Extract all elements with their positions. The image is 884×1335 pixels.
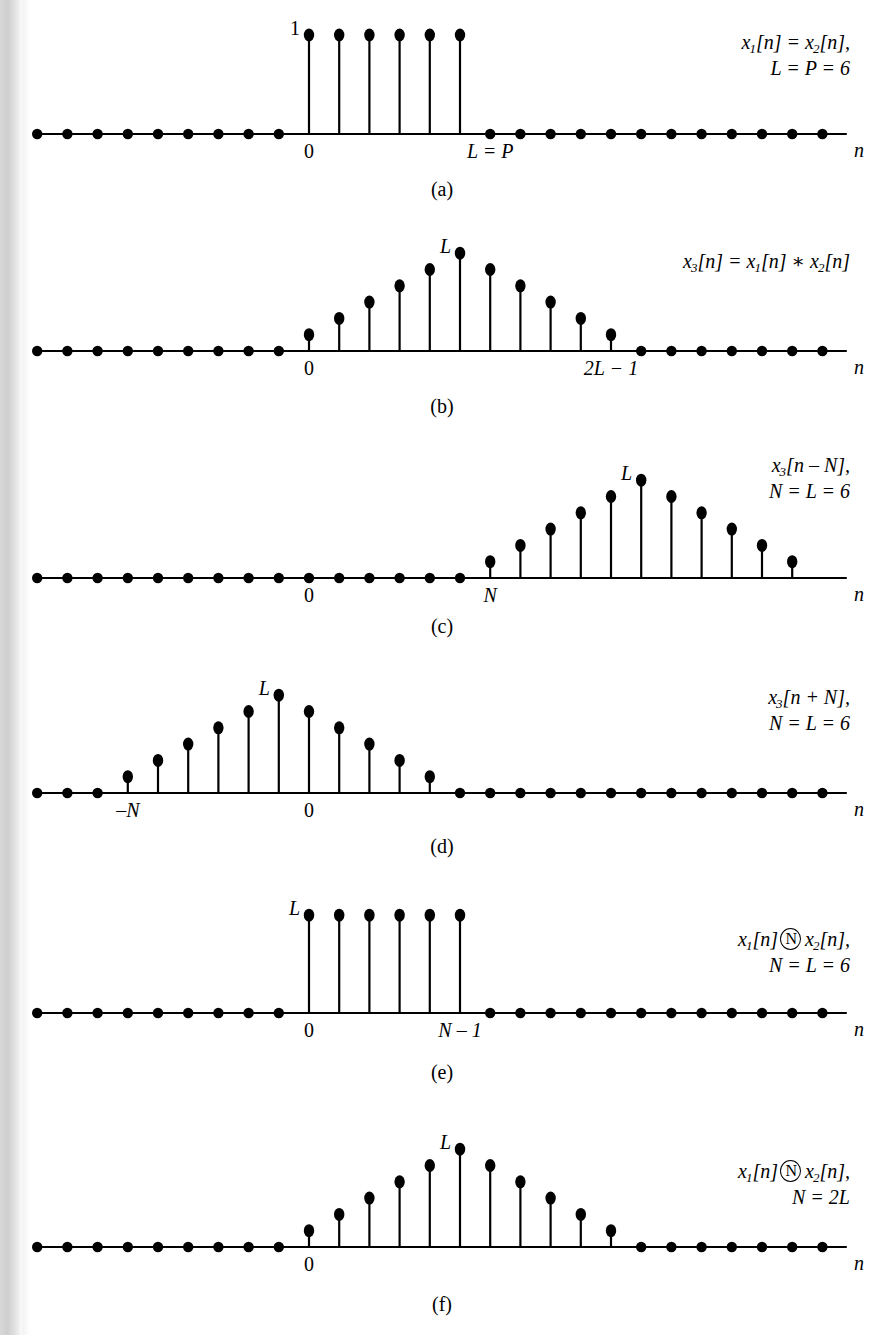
stem-head-dot [123,770,133,783]
sample-dot-zero [817,1242,827,1252]
sample-dot-zero [606,129,616,139]
sample-dot-zero [62,573,72,583]
panel-caption-f: (f) [0,1293,884,1316]
sample-dot-zero [817,1008,827,1018]
sample-dot-zero [274,346,284,356]
stem-head-dot [394,909,404,922]
sample-dot-zero [787,1242,797,1252]
annot-e-end: [n], [819,928,850,950]
stem-head-dot [304,705,314,718]
sample-dot-zero [32,788,42,798]
sample-dot-zero [334,573,344,583]
stem-head-dot [304,29,314,42]
sample-dot-zero [515,788,525,798]
annot-a-end: [n], [819,31,850,53]
sample-dot-zero [213,129,223,139]
axis-name-b: n [854,356,864,379]
sample-dot-zero [153,129,163,139]
panel-caption-e: (e) [0,1061,884,1084]
sample-dot-zero [727,1242,737,1252]
sample-dot-zero [787,346,797,356]
sample-dot-zero [455,573,465,583]
panel-caption-a: (a) [0,178,884,201]
sample-dot-zero [243,129,253,139]
sample-dot-zero [274,129,284,139]
panel-e: L 0 N – 1 n x1[n]Nx2[n], N = L = 6 (e) [0,875,884,1107]
stem-head-dot [485,1159,495,1172]
stem-head-dot [515,279,525,292]
sample-dot-zero [62,129,72,139]
sample-dot-zero [123,573,133,583]
stem-plot-c [0,435,884,617]
annotation-c: x3[n – N], N = L = 6 [769,453,850,504]
stem-head-dot [183,738,193,751]
sample-dot-zero [787,788,797,798]
panel-f: L 0 n x1[n]Nx2[n], N = 2L (f) [0,1107,884,1335]
stem-head-dot [334,29,344,42]
stem-head-dot [334,721,344,734]
sample-dot-zero [455,788,465,798]
sample-dot-zero [757,1008,767,1018]
sample-dot-zero [123,129,133,139]
sample-dot-zero [636,129,646,139]
sample-dot-zero [787,1008,797,1018]
sample-dot-zero [274,573,284,583]
stem-head-dot [787,555,797,568]
sample-dot-zero [364,573,374,583]
sample-dot-zero [636,346,646,356]
sample-dot-zero [817,788,827,798]
annotation-e-line1: x1[n]Nx2[n], [738,927,850,953]
tick-label-d-0: –N [116,799,139,822]
tick-label-a-1: L = P [467,140,513,163]
annotation-e-line2: N = L = 6 [738,953,850,977]
tick-label-d-1: 0 [304,799,314,822]
sample-dot-zero [727,129,737,139]
stem-head-dot [334,1208,344,1221]
panel-caption-d: (d) [0,835,884,858]
sample-dot-zero [183,573,193,583]
annotation-f: x1[n]Nx2[n], N = 2L [738,1159,850,1210]
axis-name-e: n [854,1018,864,1041]
annotation-c-line1: x3[n – N], [769,453,850,479]
stem-head-dot [334,909,344,922]
annotation-f-line2: N = 2L [738,1185,850,1209]
sample-dot-zero [304,573,314,583]
amplitude-label-c: L [621,462,632,485]
sample-dot-zero [817,129,827,139]
stem-head-dot [606,328,616,341]
stem-head-dot [364,29,374,42]
sample-dot-zero [92,346,102,356]
panel-caption-b: (b) [0,395,884,418]
annotation-d-line2: N = L = 6 [768,711,850,735]
circled-n-icon: N [780,928,803,950]
sample-dot-zero [183,1008,193,1018]
sample-dot-zero [515,129,525,139]
annotation-f-line1: x1[n]Nx2[n], [738,1159,850,1185]
stem-head-dot [727,523,737,536]
sample-dot-zero [92,788,102,798]
sample-dot-zero [636,1008,646,1018]
annotation-c-line2: N = L = 6 [769,479,850,503]
sample-dot-zero [485,1008,495,1018]
annotation-b-line1: x3[n] = x1[n] ∗ x2[n] [683,249,850,275]
panel-a: 1 0 L = P n x1[n] = x2[n], L = P = 6 (a) [0,0,884,217]
sample-dot-zero [606,788,616,798]
stem-head-dot [455,1143,465,1156]
stem-head-dot [425,1159,435,1172]
stem-plot-a [0,0,884,180]
sample-dot-zero [213,346,223,356]
sample-dot-zero [757,1242,767,1252]
annot-f-end: [n], [819,1160,850,1182]
sample-dot-zero [32,1242,42,1252]
sample-dot-zero [545,1008,555,1018]
stem-head-dot [153,754,163,767]
sample-dot-zero [243,573,253,583]
sample-dot-zero [32,129,42,139]
amplitude-label-a: 1 [290,17,300,40]
stem-head-dot [757,539,767,552]
stem-head-dot [576,1208,586,1221]
stem-head-dot [425,770,435,783]
amplitude-label-b: L [440,235,451,258]
circled-n-letter: N [780,928,802,950]
sample-dot-zero [92,573,102,583]
